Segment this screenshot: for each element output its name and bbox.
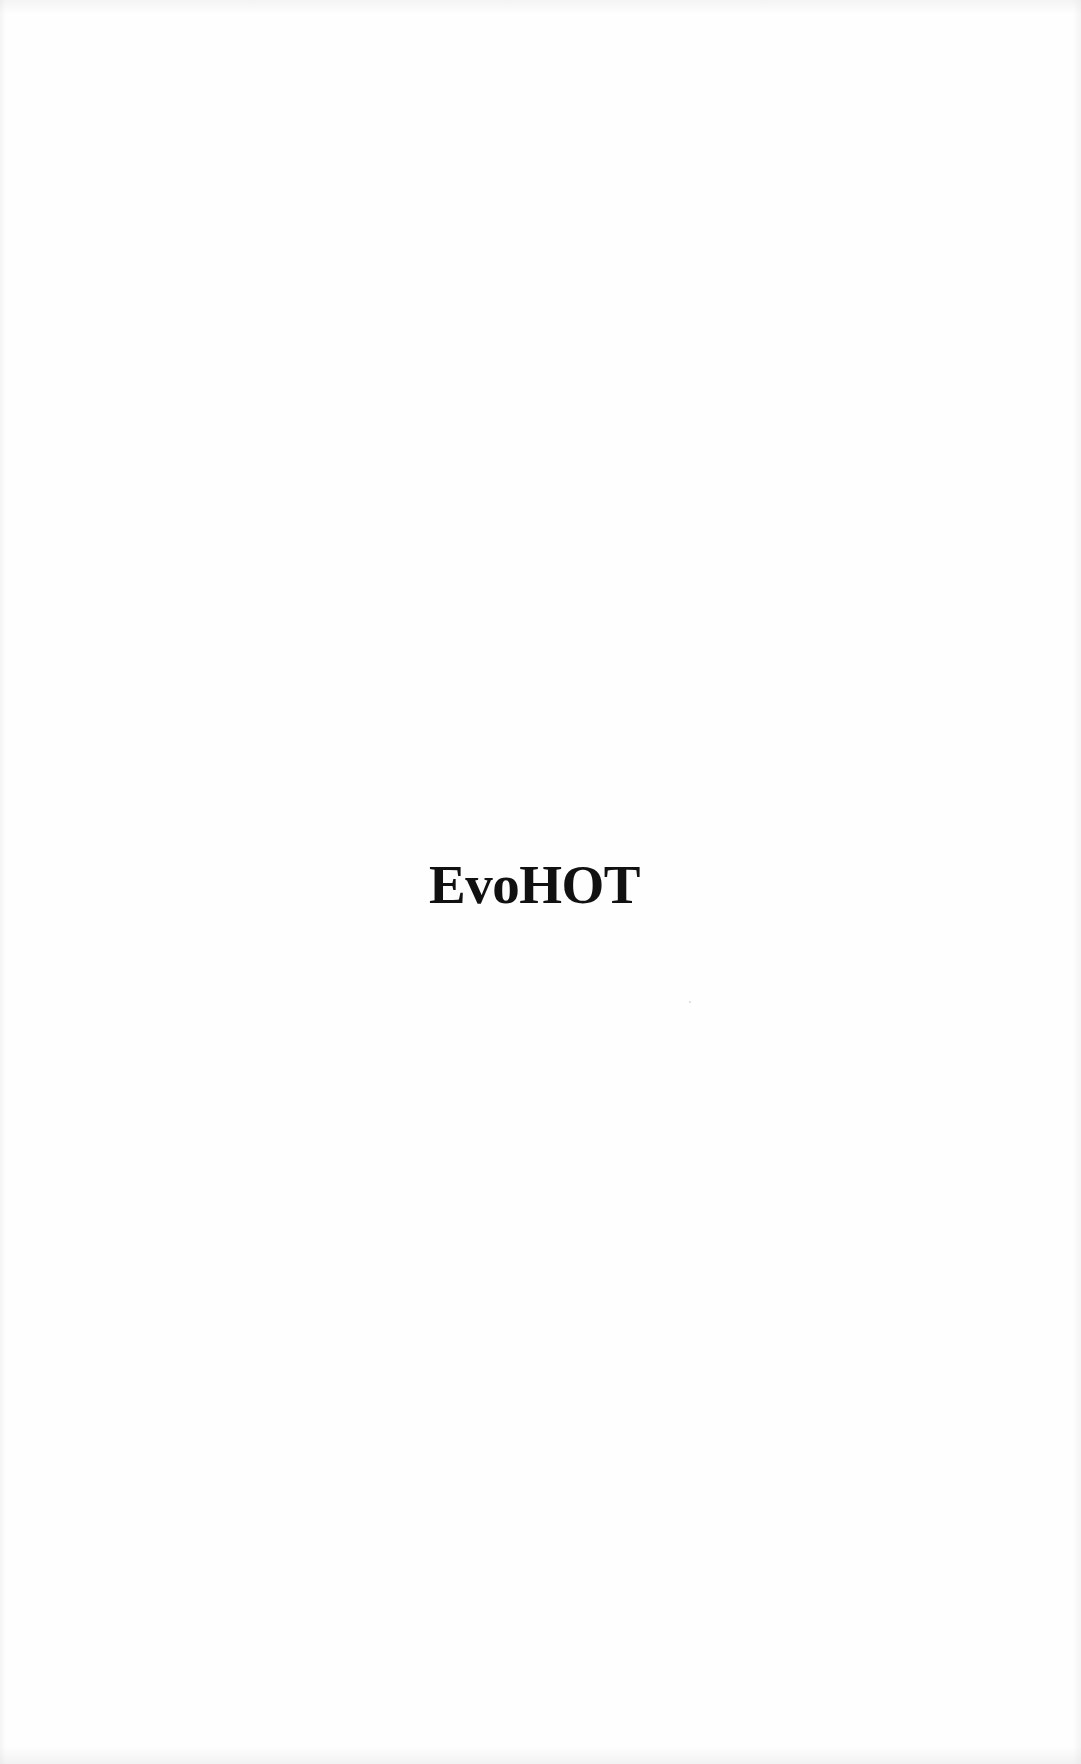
scan-artifact-right: [1073, 0, 1081, 1764]
page-title: EvoHOT: [0, 852, 1069, 918]
scan-artifact-bottom: [0, 1746, 1081, 1764]
document-page: EvoHOT: [0, 0, 1081, 1764]
scan-artifact-top: [0, 0, 1081, 14]
scan-speck: [689, 1001, 691, 1003]
